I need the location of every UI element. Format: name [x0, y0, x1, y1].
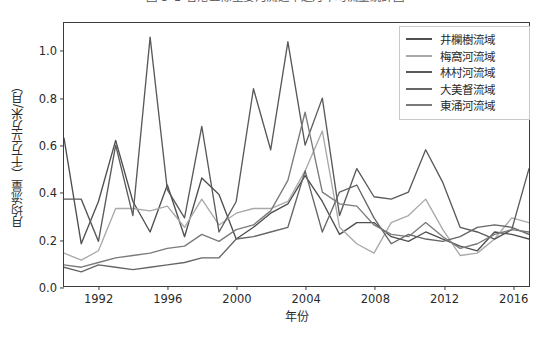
y-tick-label: 0.8: [39, 92, 57, 106]
y-tick-mark: [60, 98, 64, 99]
legend-label: 林村河流域: [440, 64, 495, 80]
y-tick-mark: [60, 240, 64, 241]
legend-label: 井欄樹流域: [440, 31, 495, 47]
y-axis-label-text: 月均流量（千万立方米/月）: [9, 80, 26, 228]
y-tick-label: 0.6: [39, 139, 57, 153]
y-tick-mark: [60, 287, 64, 288]
legend-line-icon: [406, 38, 432, 40]
legend-item[interactable]: 林村河流域: [406, 64, 523, 81]
legend-item[interactable]: 大美督流域: [406, 81, 523, 98]
x-tick-label: 2016: [499, 292, 528, 306]
y-axis-label: 月均流量（千万立方米/月）: [8, 22, 26, 287]
y-tick-label: 1.0: [39, 44, 57, 58]
x-tick-label: 1996: [153, 292, 182, 306]
series-line: [64, 138, 529, 251]
x-tick-mark: [167, 286, 168, 290]
x-tick-mark: [375, 286, 376, 290]
y-tick-mark: [60, 145, 64, 146]
legend-item[interactable]: 東涌河流域: [406, 97, 523, 114]
legend-item[interactable]: 梅窩河流域: [406, 48, 523, 65]
legend-line-icon: [406, 88, 432, 90]
legend-line-icon: [406, 55, 432, 57]
chart-title: 圖 3-1 香港五條主要河流近年逐月平均流量統計圖: [0, 0, 550, 4]
x-tick-label: 2012: [430, 292, 459, 306]
y-tick-label: 0.0: [39, 281, 57, 295]
legend-label: 東涌河流域: [440, 97, 495, 113]
x-tick-mark: [236, 286, 237, 290]
series-line: [64, 131, 529, 260]
chart-title-clipped: 圖 3-1 香港五條主要河流近年逐月平均流量統計圖: [0, 0, 550, 9]
legend-label: 大美督流域: [440, 81, 495, 97]
legend-label: 梅窩河流域: [440, 48, 495, 64]
legend-line-icon: [406, 104, 432, 106]
legend-item[interactable]: 井欄樹流域: [406, 31, 523, 48]
y-tick-mark: [60, 193, 64, 194]
x-tick-mark: [306, 286, 307, 290]
x-axis-label: 年份: [63, 307, 530, 324]
y-tick-label: 0.2: [39, 234, 57, 248]
x-tick-mark: [513, 286, 514, 290]
y-tick-mark: [60, 51, 64, 52]
x-tick-label: 2008: [361, 292, 390, 306]
y-tick-label: 0.4: [39, 186, 57, 200]
x-tick-label: 2004: [292, 292, 321, 306]
x-tick-label: 1992: [84, 292, 113, 306]
x-tick-label: 2000: [222, 292, 251, 306]
legend-line-icon: [406, 71, 432, 73]
chart-legend: 井欄樹流域梅窩河流域林村河流域大美督流域東涌河流域: [399, 26, 530, 120]
x-tick-mark: [98, 286, 99, 290]
x-tick-mark: [444, 286, 445, 290]
chart-figure: 圖 3-1 香港五條主要河流近年逐月平均流量統計圖 月均流量（千万立方米/月） …: [0, 0, 550, 339]
